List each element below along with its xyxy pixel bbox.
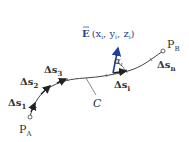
label-pa: PA xyxy=(19,123,32,138)
arrow-ds1 xyxy=(31,103,35,112)
label-dsi: Δsi xyxy=(114,79,130,93)
point-pb xyxy=(161,49,165,53)
label-ds2: Δs2 xyxy=(20,76,38,90)
label-dsn: Δsn xyxy=(157,59,175,73)
label-pb: PB xyxy=(167,38,180,53)
label-c: C xyxy=(93,97,102,110)
segment-arrows xyxy=(31,71,126,112)
label-alpha: αi xyxy=(114,55,123,67)
label-field-vector: E(xi, yi, zi) xyxy=(82,28,135,40)
arrow-dsi xyxy=(113,71,126,73)
label-ds1: Δs1 xyxy=(8,97,26,111)
curve-c-pointer xyxy=(86,78,96,95)
label-ds3: Δs3 xyxy=(44,64,62,78)
point-pa xyxy=(28,115,32,119)
line-integral-diagram: PA PB Δs1 Δs2 Δs3 Δsi Δsn C αi E(xi, yi,… xyxy=(0,0,189,142)
